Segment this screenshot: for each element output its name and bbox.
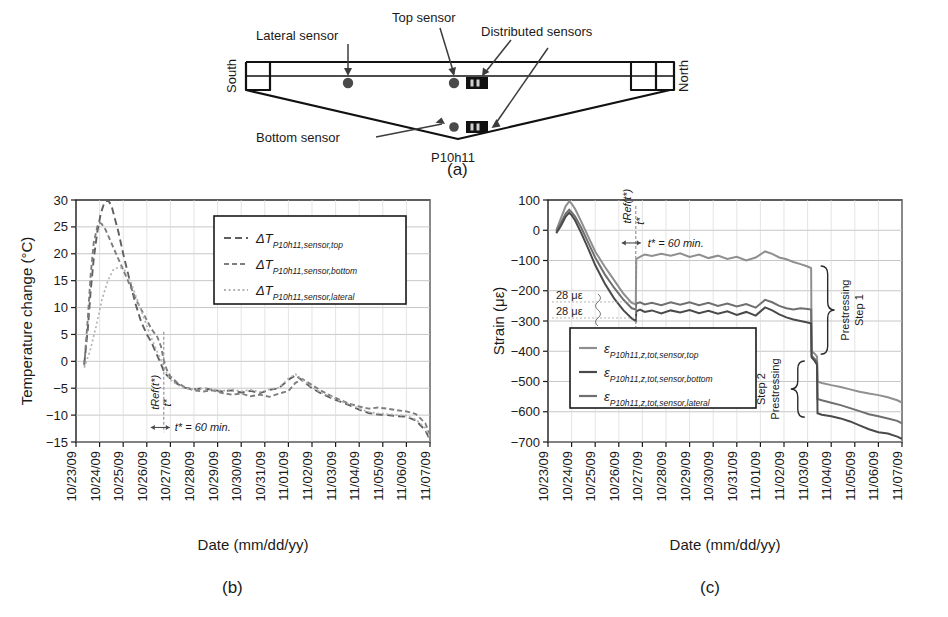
prestressing-step-1-label: Prestressing: [839, 280, 851, 341]
y-tick-label: −500: [511, 374, 540, 389]
x-tick-label: 10/24/09: [560, 451, 575, 502]
lateral-sensor-dot: [343, 78, 353, 88]
south-label: South: [226, 59, 239, 93]
t-star-label: t*: [634, 217, 646, 225]
north-label: North: [676, 60, 691, 92]
distributed-sensors-label: Distributed sensors: [481, 24, 593, 39]
top-sensor-label: Top sensor: [392, 10, 456, 25]
x-axis-title: Date (mm/dd/yy): [198, 536, 309, 553]
x-tick-label: 10/29/09: [206, 451, 221, 502]
x-tick-label: 11/04/09: [819, 451, 834, 501]
x-tick-label: 10/23/09: [64, 451, 79, 502]
y-axis-title: Temperature change (°C): [18, 237, 35, 406]
x-tick-label: 11/06/09: [866, 451, 881, 501]
offset-label-0: 28 με: [556, 289, 583, 301]
x-tick-label: 10/27/09: [630, 451, 645, 502]
x-axis-title: Date (mm/dd/yy): [670, 536, 781, 553]
x-tick-label: 10/30/09: [701, 451, 716, 502]
x-tick-label: 11/03/09: [324, 451, 339, 501]
panel-a-sublabel: (a): [447, 160, 468, 180]
y-tick-label: −5: [53, 381, 68, 396]
x-tick-label: 11/05/09: [843, 451, 858, 501]
x-tick-label: 10/27/09: [158, 451, 173, 502]
x-tick-label: 10/31/09: [253, 451, 268, 502]
y-tick-label: −200: [511, 283, 540, 298]
x-tick-label: 11/05/09: [371, 451, 386, 501]
top-sensor-dot: [449, 78, 459, 88]
x-tick-label: 11/06/09: [394, 451, 409, 501]
t-star-label: t*: [161, 398, 173, 406]
legend-box: [570, 328, 756, 408]
x-tick-label: 10/24/09: [88, 451, 103, 502]
y-tick-label: −15: [46, 435, 68, 450]
y-axis-title: Strain (με): [490, 287, 507, 356]
t-star-duration-label: t* = 60 min.: [648, 237, 704, 249]
x-tick-label: 11/07/09: [890, 451, 905, 501]
panel-c-strain-chart: 1000−100−200−300−400−500−600−70010/23/09…: [470, 186, 936, 558]
girder-outline: [246, 62, 674, 139]
x-tick-label: 11/01/09: [276, 451, 291, 501]
top-sensor-leader: [440, 28, 454, 74]
x-tick-label: 11/07/09: [418, 451, 433, 501]
x-tick-label: 11/01/09: [748, 451, 763, 501]
y-tick-label: −10: [46, 408, 68, 423]
y-tick-label: 25: [54, 219, 68, 234]
y-tick-label: 20: [54, 246, 68, 261]
x-tick-label: 10/30/09: [229, 451, 244, 502]
t-ref-label: tRef(t*): [149, 375, 161, 410]
y-tick-label: 0: [533, 223, 540, 238]
distributed-sensors-leader-top: [484, 40, 511, 74]
bottom-arrow-head: [436, 117, 446, 124]
panel-b-sublabel: (b): [222, 578, 243, 598]
x-tick-label: 10/28/09: [654, 451, 669, 502]
x-tick-label: 10/23/09: [536, 451, 551, 502]
y-tick-label: −100: [511, 253, 540, 268]
distributed-sensor-bottom: [466, 121, 488, 133]
x-tick-label: 10/25/09: [583, 451, 598, 502]
distributed-sensors-leader-bottom: [494, 48, 548, 126]
bottom-sensor-label: Bottom sensor: [256, 130, 340, 145]
x-tick-label: 10/31/09: [725, 451, 740, 502]
prestressing-step-2-label: Prestressing: [769, 358, 781, 419]
y-tick-label: 10: [54, 300, 68, 315]
y-tick-label: 100: [518, 193, 540, 208]
panel-c-sublabel: (c): [700, 578, 720, 598]
bottom-sensor-dot: [449, 122, 459, 132]
offset-label-1: 28 με: [556, 305, 583, 317]
bottom-sensor-leader: [376, 124, 442, 137]
x-tick-label: 10/29/09: [678, 451, 693, 502]
y-tick-label: −700: [511, 435, 540, 450]
y-tick-label: 30: [54, 193, 68, 208]
t-star-duration-label: t* = 60 min.: [175, 421, 231, 433]
lateral-sensor-label: Lateral sensor: [256, 28, 339, 43]
x-tick-label: 11/04/09: [347, 451, 362, 501]
y-tick-label: 5: [61, 327, 68, 342]
y-tick-label: 15: [54, 273, 68, 288]
x-tick-label: 10/26/09: [607, 451, 622, 502]
panel-b-temperature-chart: 302520151050−5−10−1510/23/0910/24/0910/2…: [14, 186, 464, 558]
lateral-arrow-head: [344, 68, 352, 76]
prestressing-step-1-label-2: Step 1: [853, 294, 865, 326]
distributed-sensor-top: [466, 77, 488, 89]
y-tick-label: −400: [511, 344, 540, 359]
y-tick-label: 0: [61, 354, 68, 369]
top-arrow-head: [448, 67, 456, 76]
x-tick-label: 10/28/09: [182, 451, 197, 502]
t-ref-label: tRef(t*): [621, 188, 633, 223]
y-tick-label: −600: [511, 404, 540, 419]
x-tick-label: 11/02/09: [772, 451, 787, 501]
distributed-arrow-head-bottom: [492, 119, 501, 128]
y-tick-label: −300: [511, 314, 540, 329]
x-tick-label: 10/25/09: [111, 451, 126, 502]
panel-a-cross-section: Lateral sensor Top sensor Distributed se…: [226, 4, 726, 180]
x-tick-label: 10/26/09: [135, 451, 150, 502]
x-tick-label: 11/03/09: [796, 451, 811, 501]
x-tick-label: 11/02/09: [300, 451, 315, 501]
